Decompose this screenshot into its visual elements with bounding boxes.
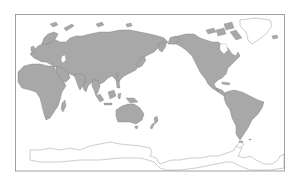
falklands — [249, 139, 251, 140]
new-guinea — [126, 98, 138, 103]
novaya-zemlya — [64, 24, 74, 31]
sumatra — [96, 94, 104, 102]
antarctica — [30, 142, 284, 170]
cuba — [222, 82, 230, 85]
new-siberian-islands — [126, 23, 132, 27]
severnaya-zemlya — [96, 22, 104, 27]
south-america-landmass — [224, 90, 264, 140]
new-zealand-south — [150, 123, 155, 129]
world-map — [0, 0, 298, 181]
tasmania — [135, 126, 138, 129]
java — [104, 103, 112, 105]
baffin-island — [230, 30, 242, 40]
madagascar — [61, 100, 66, 112]
australia-landmass — [116, 104, 144, 124]
svalbard — [50, 22, 58, 27]
central-america — [216, 88, 226, 96]
canadian-arctic-1 — [206, 28, 216, 34]
new-zealand-north — [154, 116, 158, 124]
kamchatka — [158, 42, 166, 52]
iceland — [272, 35, 278, 39]
greenland — [240, 18, 272, 44]
canadian-arctic-2 — [216, 28, 226, 36]
borneo — [108, 90, 116, 99]
sulawesi — [118, 93, 121, 99]
canadian-arctic-3 — [224, 22, 234, 30]
indochina — [92, 80, 100, 96]
